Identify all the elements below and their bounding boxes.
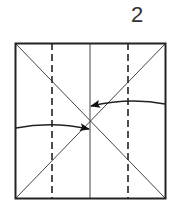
origami-fold-diagram: [0, 0, 178, 207]
